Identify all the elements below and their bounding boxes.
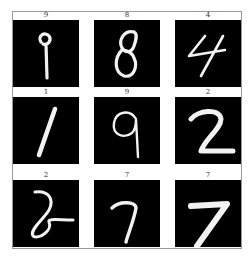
digit-image-7 bbox=[94, 180, 160, 247]
sample-label: 2 bbox=[175, 88, 241, 97]
sample-label: 2 bbox=[13, 171, 79, 180]
digit-image-2 bbox=[175, 97, 241, 164]
sample-label: 4 bbox=[175, 11, 241, 20]
digit-image-4 bbox=[175, 20, 241, 87]
sample-label: 1 bbox=[13, 88, 79, 97]
digit-image-9 bbox=[13, 20, 79, 87]
digit-image-1 bbox=[13, 97, 79, 164]
digit-image-8 bbox=[94, 20, 160, 87]
digit-image-2 bbox=[13, 180, 79, 247]
digit-image-7 bbox=[175, 180, 241, 247]
sample-label: 8 bbox=[94, 11, 160, 20]
sample-label: 7 bbox=[94, 171, 160, 180]
sample-label: 7 bbox=[175, 171, 241, 180]
digit-image-9 bbox=[94, 97, 160, 164]
sample-label: 9 bbox=[13, 11, 79, 20]
sample-label: 9 bbox=[94, 88, 160, 97]
